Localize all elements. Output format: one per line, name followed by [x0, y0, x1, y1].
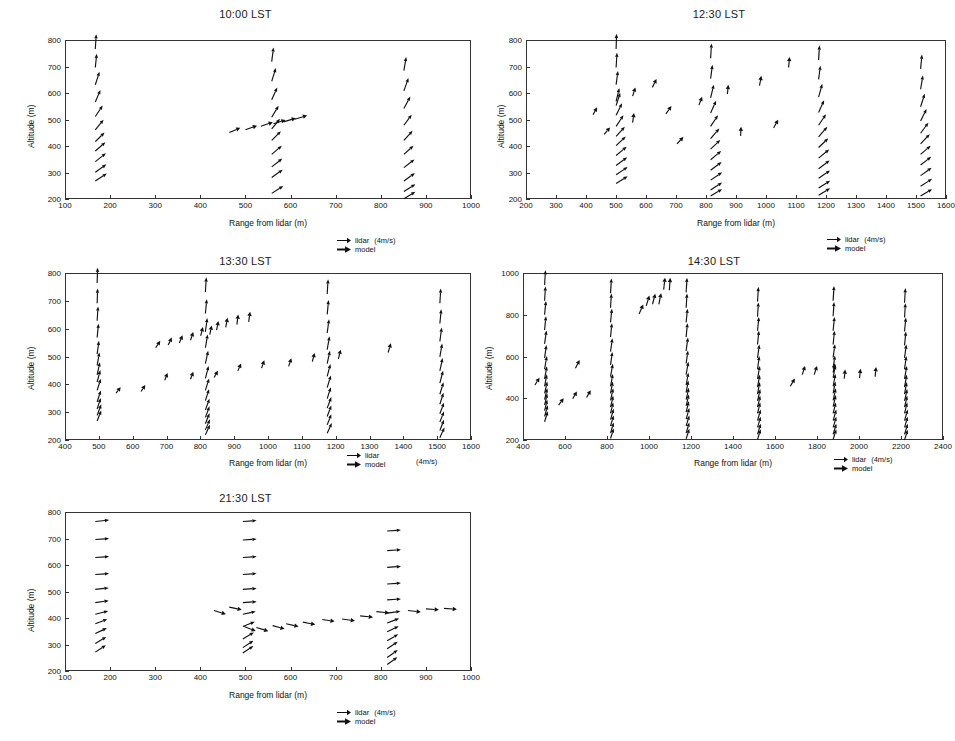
wind-vector-head — [105, 537, 109, 540]
x-tick-label: 800 — [699, 201, 712, 210]
wind-vector-shaft — [833, 348, 834, 357]
wind-vector-shaft — [262, 364, 263, 368]
y-tick-label: 400 — [39, 142, 61, 151]
wind-vector-shaft — [819, 50, 820, 61]
legend-label-model: model — [355, 717, 375, 726]
wind-vector-shaft — [711, 185, 719, 190]
wind-vector-shaft — [819, 88, 822, 97]
wind-vector-head — [294, 623, 299, 627]
wind-vector-shaft — [168, 341, 170, 345]
legend-label-model: model — [852, 464, 872, 473]
wind-vector-shaft — [179, 339, 181, 343]
wind-vector-shaft — [604, 131, 607, 135]
wind-vector-shaft — [95, 94, 98, 102]
x-tick-label: 1500 — [428, 442, 446, 451]
x-tick-label: 900 — [419, 201, 432, 210]
y-tick — [65, 618, 69, 619]
wind-vector-shaft — [327, 418, 330, 425]
y-tick-label: 500 — [39, 587, 61, 596]
wind-vector-shaft — [95, 76, 98, 85]
wind-vector-shaft — [587, 394, 589, 398]
x-tick-label: 200 — [103, 673, 116, 682]
vector-field — [66, 41, 472, 200]
wind-vector-head — [105, 555, 109, 558]
wind-vector-shaft — [95, 557, 105, 558]
wind-vector-shaft — [921, 59, 922, 69]
wind-vector-shaft — [327, 368, 329, 376]
y-axis-title: Altitude (m) — [26, 347, 36, 390]
wind-vector-head — [757, 331, 760, 335]
wind-vector-shaft — [833, 335, 834, 345]
x-tick-label: 1200 — [682, 442, 700, 451]
wind-vector-shaft — [210, 330, 211, 335]
wind-vector-shaft — [387, 599, 397, 600]
y-tick — [65, 146, 69, 147]
wind-vector-head — [102, 628, 107, 631]
wind-vector-head — [710, 44, 713, 48]
wind-vector-shaft — [616, 119, 621, 127]
wind-vector-head — [97, 341, 100, 345]
wind-vector-head — [668, 278, 672, 282]
wind-vector-shaft — [758, 307, 759, 317]
x-tick — [565, 436, 566, 440]
wind-vector-shaft — [95, 612, 104, 614]
wind-vector-head — [394, 634, 398, 638]
wind-vector-shaft — [440, 386, 442, 394]
wind-vector-shaft — [611, 283, 612, 294]
wind-vector-head — [252, 587, 256, 590]
wind-vector-head — [288, 358, 292, 363]
x-tick-label: 1400 — [877, 201, 895, 210]
wind-vector-head — [95, 54, 98, 58]
plot-area — [65, 512, 471, 671]
x-tick — [200, 667, 201, 671]
model-arrow-icon — [336, 717, 352, 726]
legend-row-lidar: lidar — [346, 451, 385, 460]
wind-vector-shaft — [95, 167, 103, 172]
wind-vector-head — [726, 85, 730, 89]
y-tick — [65, 412, 69, 413]
wind-vector-head — [250, 622, 255, 625]
x-tick-label: 2200 — [892, 442, 910, 451]
wind-vector-head — [338, 350, 342, 355]
wind-vector-head — [544, 345, 547, 349]
wind-vector-head — [328, 364, 331, 368]
wind-vector-shaft — [711, 48, 712, 59]
y-tick-label: 600 — [39, 561, 61, 570]
wind-vector-shaft — [616, 107, 620, 115]
wind-vector-head — [439, 328, 442, 332]
wind-vector-shaft — [205, 303, 206, 313]
y-tick-label: 500 — [500, 115, 522, 124]
wind-vector-head — [713, 101, 716, 106]
y-tick-label: 800 — [497, 310, 519, 319]
x-tick — [200, 195, 201, 199]
wind-vector-shaft — [545, 291, 546, 301]
x-tick-label: 1000 — [462, 673, 480, 682]
wind-vector-shaft — [711, 89, 713, 98]
x-tick-label: 800 — [374, 673, 387, 682]
wind-vector-shaft — [819, 173, 827, 178]
y-tick — [65, 93, 69, 94]
wind-vector-head — [102, 637, 106, 641]
wind-vector-shaft — [440, 431, 443, 437]
wind-vector-head — [274, 87, 277, 92]
wind-vector-head — [326, 300, 329, 304]
wind-vector-head — [96, 324, 99, 328]
wind-vector-head — [544, 301, 547, 305]
wind-vector-shaft — [243, 574, 253, 575]
y-tick-label: 400 — [39, 614, 61, 623]
wind-vector-shaft — [426, 609, 435, 610]
lidar-arrow-icon — [826, 235, 842, 244]
wind-vector-shaft — [205, 393, 207, 401]
x-tick — [616, 195, 617, 199]
legend-label-lidar: lidar — [355, 236, 369, 245]
wind-vector-shaft — [616, 160, 624, 166]
wind-vector-head — [96, 289, 99, 293]
wind-vector-shaft — [616, 57, 617, 68]
legend: lidar (4m/s) model — [826, 235, 885, 253]
wind-vector-shaft — [205, 339, 207, 348]
wind-vector-shaft — [611, 342, 612, 351]
y-tick — [65, 329, 69, 330]
legend-label-model: model — [845, 244, 865, 253]
wind-vector-shaft — [95, 176, 103, 181]
y-tick — [523, 357, 527, 358]
